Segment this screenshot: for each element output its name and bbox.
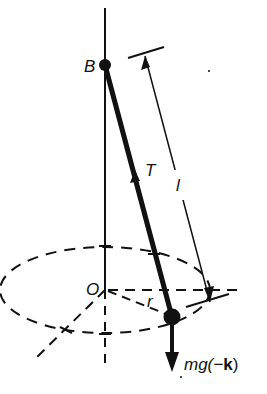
label-tension: T	[145, 161, 157, 180]
diagonal-axis	[36, 290, 105, 358]
length-end-cap-top	[128, 47, 164, 58]
weight-arrow-head-icon	[165, 352, 179, 372]
stray-dot	[208, 70, 210, 72]
label-origin: O	[86, 280, 99, 299]
conical-pendulum-diagram: B O T l r mg(−k)	[0, 0, 267, 394]
weight-suffix: )	[233, 355, 239, 374]
pivot-point	[99, 59, 111, 71]
pendulum-string	[105, 65, 172, 317]
radius-line	[108, 291, 166, 314]
label-weight: mg(−k)	[184, 355, 238, 374]
weight-prefix: mg(−	[184, 355, 223, 374]
label-pivot: B	[84, 57, 95, 76]
stray-dot	[180, 376, 182, 378]
